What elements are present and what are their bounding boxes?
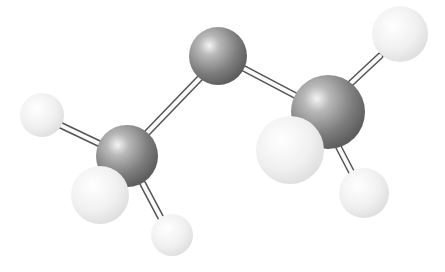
- bond-c-right-h-top-right: [350, 56, 380, 84]
- bond-c-right-h-right-bottom: [338, 146, 352, 173]
- atom-h-left-front: [71, 166, 129, 224]
- atom-h-top-right: [372, 6, 428, 62]
- atom-h-left: [20, 93, 64, 137]
- molecule-model: [0, 0, 445, 272]
- atoms-layer: [20, 6, 428, 256]
- atom-h-right-bottom: [339, 168, 389, 218]
- bond-c-left-h-bottom: [143, 184, 162, 220]
- atom-central: [189, 27, 247, 85]
- bond-c-left-h-left: [58, 124, 100, 144]
- bond-central-c-right: [243, 68, 300, 98]
- bond-central-c-left: [147, 78, 200, 133]
- atom-h-bottom: [151, 214, 193, 256]
- atom-h-right-front: [256, 116, 324, 184]
